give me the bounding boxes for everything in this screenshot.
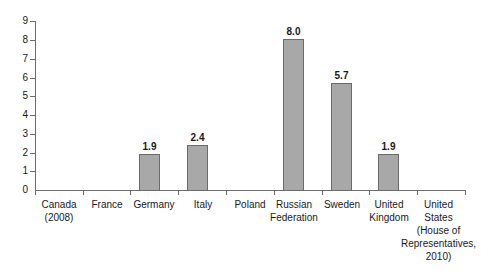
y-tick-label-0: 0 [0, 185, 28, 195]
bar-sweden [331, 83, 352, 191]
y-tick-label-3-text: 3 [4, 129, 28, 139]
y-tick-label-5: 5 [0, 91, 28, 101]
bar-united-kingdom [378, 154, 399, 191]
x-category-label-united-states-line-1: States [396, 211, 481, 224]
x-tick-6 [322, 190, 323, 195]
x-axis-line [35, 190, 465, 191]
bar-value-italy: 2.4 [173, 132, 222, 143]
y-tick-label-5-text: 5 [4, 91, 28, 101]
y-tick-label-6: 6 [0, 73, 28, 83]
y-tick-label-6-text: 6 [4, 73, 28, 83]
bar-chart: 9 8 7 6 5 4 3 2 1 0 [0, 0, 481, 271]
bar-italy [187, 145, 208, 191]
y-axis-line [35, 21, 36, 191]
x-category-label-united-states-line-4: 2010) [396, 250, 481, 263]
x-tick-1 [83, 190, 84, 195]
bar-value-sweden: 5.7 [317, 70, 366, 81]
y-tick-label-8-text: 8 [4, 35, 28, 45]
y-tick-label-9: 9 [0, 16, 28, 26]
y-tick-label-1-text: 1 [4, 166, 28, 176]
y-tick-label-2: 2 [0, 148, 28, 158]
y-tick-label-0-text: 0 [4, 185, 28, 195]
y-tick-label-8: 8 [0, 35, 28, 45]
y-tick-label-1: 1 [0, 166, 28, 176]
x-category-label-united-states-line-2: (House of [396, 224, 481, 237]
x-tick-8 [417, 190, 418, 195]
bar-value-russian-federation: 8.0 [269, 26, 318, 37]
x-tick-2 [130, 190, 131, 195]
x-category-label-united-states-line-3: Representatives, [396, 237, 481, 250]
x-category-label-russian-federation-line-1: Federation [262, 211, 326, 224]
x-category-label-united-states: United States (House of Representatives,… [396, 198, 481, 263]
x-tick-9 [465, 190, 466, 195]
x-tick-4 [226, 190, 227, 195]
y-tick-label-7-text: 7 [4, 54, 28, 64]
y-tick-label-3: 3 [0, 129, 28, 139]
bar-germany [139, 154, 160, 191]
y-tick-label-4: 4 [0, 110, 28, 120]
x-tick-7 [369, 190, 370, 195]
bar-value-germany: 1.9 [125, 141, 174, 152]
x-category-label-canada-line-1: (2008) [31, 211, 87, 224]
bar-russian-federation [283, 39, 304, 191]
y-tick-label-2-text: 2 [4, 148, 28, 158]
x-tick-0 [35, 190, 36, 195]
bar-value-united-kingdom: 1.9 [364, 141, 413, 152]
x-category-label-united-states-line-0: United [396, 198, 481, 211]
y-tick-label-9-text: 9 [4, 16, 28, 26]
y-tick-label-7: 7 [0, 54, 28, 64]
x-tick-3 [178, 190, 179, 195]
x-tick-5 [274, 190, 275, 195]
y-tick-label-4-text: 4 [4, 110, 28, 120]
